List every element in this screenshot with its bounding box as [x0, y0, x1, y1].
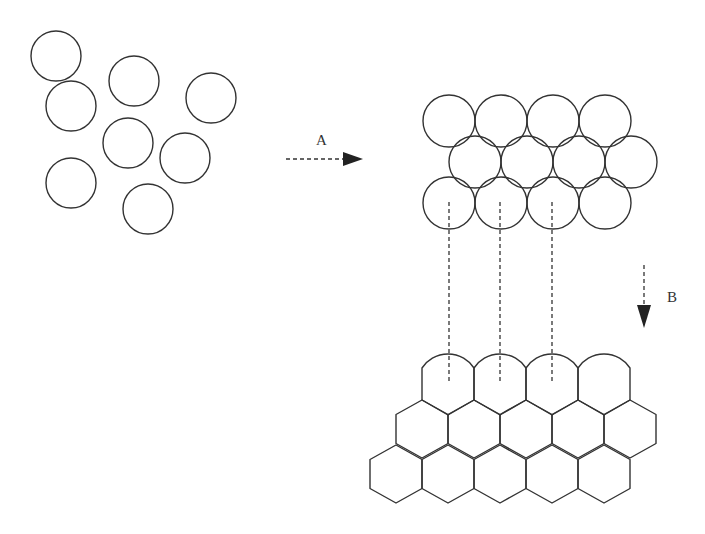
packed-particle-circle [579, 95, 631, 147]
packed-particle-circle [423, 95, 475, 147]
arrow-a-packing: A [286, 132, 363, 166]
particle-circle [46, 81, 96, 131]
scattered-particles [31, 31, 236, 234]
particle-circle [160, 133, 210, 183]
packed-particle-circle [449, 136, 501, 188]
packed-particle-circle [605, 136, 657, 188]
arched-top-cell [422, 354, 474, 415]
arrow-b-compression: B [637, 265, 677, 328]
particle-circle [186, 73, 236, 123]
particle-circle [31, 31, 81, 81]
particle-circle [109, 56, 159, 106]
packed-particle-circle [501, 136, 553, 188]
arrow-a-label: A [316, 132, 327, 148]
packed-particle-circle [527, 177, 579, 229]
arrow-a-head-icon [343, 152, 363, 166]
particle-circle [46, 158, 96, 208]
packed-particles [423, 95, 657, 229]
hexagonal-cell-grid [370, 354, 656, 503]
arched-top-cell [578, 354, 630, 415]
packed-particle-circle [553, 136, 605, 188]
packed-particle-circle [475, 95, 527, 147]
arrow-b-head-icon [637, 305, 651, 328]
particle-circle [103, 118, 153, 168]
packed-particle-circle [579, 177, 631, 229]
particle-packing-diagram: A B [0, 0, 705, 534]
packed-particle-circle [527, 95, 579, 147]
packed-particle-circle [475, 177, 527, 229]
arrow-b-label: B [667, 289, 677, 305]
particle-circle [123, 184, 173, 234]
